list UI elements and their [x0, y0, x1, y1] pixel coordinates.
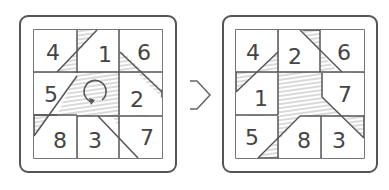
- tile-1: 1: [98, 42, 112, 67]
- tile-8: 8: [53, 128, 67, 153]
- board-before: 4 1 6 5 2 8 3 7: [20, 16, 176, 172]
- tile-2: 2: [288, 44, 302, 69]
- puzzle-diagram: 4 1 6 5 2 8 3 7: [0, 0, 389, 190]
- tile-3: 3: [88, 128, 102, 153]
- tile-4: 4: [246, 40, 260, 65]
- tile-2: 2: [130, 87, 144, 112]
- tile-6: 6: [337, 40, 351, 65]
- transform-arrow-icon: [190, 81, 210, 109]
- tile-8: 8: [297, 128, 311, 153]
- tile-5: 5: [245, 125, 259, 150]
- tile-5: 5: [44, 82, 58, 107]
- tile-6: 6: [137, 40, 151, 65]
- tile-7: 7: [338, 82, 352, 107]
- tile-3: 3: [332, 128, 346, 153]
- tile-1: 1: [254, 86, 268, 111]
- tile-4: 4: [46, 40, 60, 65]
- tile-7: 7: [140, 125, 154, 150]
- board-after: 4 2 6 1 7 5 8 3: [223, 16, 377, 172]
